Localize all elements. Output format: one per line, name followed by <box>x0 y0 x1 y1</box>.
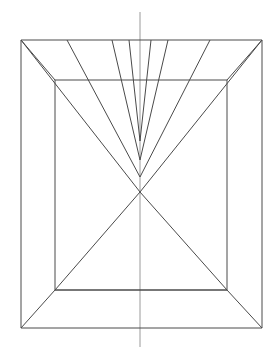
perspective-line-drawing <box>0 0 275 353</box>
figure-canvas: One-point perspective line drawing of a … <box>0 0 275 353</box>
canvas-background <box>0 0 275 353</box>
